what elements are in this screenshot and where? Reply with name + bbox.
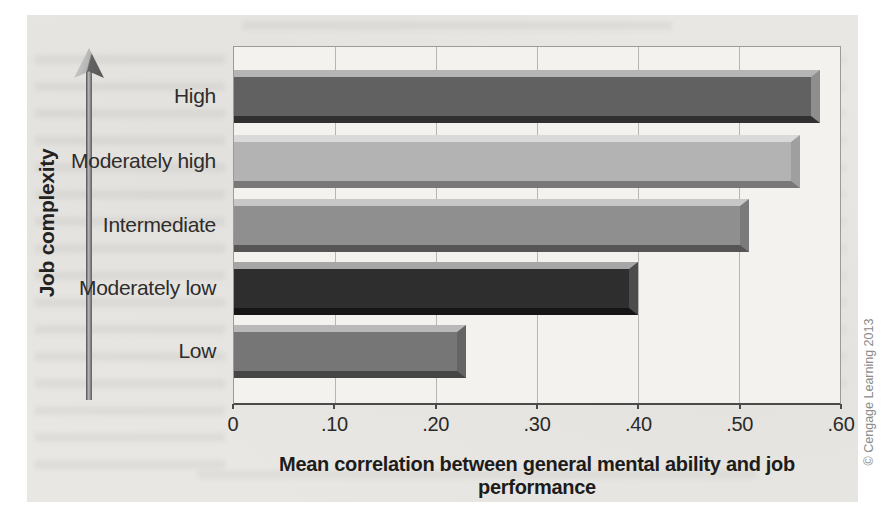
plot-area bbox=[233, 46, 841, 405]
tick-label-60: .60 bbox=[828, 413, 855, 436]
bar-moderately-low bbox=[234, 262, 638, 315]
tick-mark-40 bbox=[637, 404, 639, 409]
tick-mark-0 bbox=[232, 404, 234, 409]
category-label-moderately-high: Moderately high bbox=[27, 149, 225, 173]
bar-low bbox=[234, 325, 466, 378]
bar-intermediate bbox=[234, 199, 749, 252]
category-label-intermediate: Intermediate bbox=[27, 213, 225, 237]
tick-label-40: .40 bbox=[625, 413, 652, 436]
bar-moderately-high bbox=[234, 135, 800, 188]
tick-mark-10 bbox=[333, 404, 335, 409]
tick-mark-30 bbox=[536, 404, 538, 409]
figure-panel: Job complexity HighModerately highInterm… bbox=[27, 15, 858, 502]
category-label-high: High bbox=[27, 84, 225, 108]
copyright-credit: © Cengage Learning 2013 bbox=[862, 319, 876, 466]
tick-label-30: .30 bbox=[524, 413, 551, 436]
page-bleedthrough-texture bbox=[242, 21, 672, 39]
tick-label-50: .50 bbox=[726, 413, 753, 436]
tick-label-10: .10 bbox=[321, 413, 348, 436]
category-label-low: Low bbox=[27, 339, 225, 363]
x-axis-tick-labels: 0.10.20.30.40.50.60 bbox=[233, 413, 841, 439]
category-label-moderately-low: Moderately low bbox=[27, 276, 225, 300]
x-axis-title: Mean correlation between general mental … bbox=[233, 453, 841, 499]
x-axis-tick-marks bbox=[233, 404, 841, 410]
tick-mark-50 bbox=[739, 404, 741, 409]
tick-mark-60 bbox=[840, 404, 842, 409]
tick-label-0: 0 bbox=[228, 413, 239, 436]
tick-mark-20 bbox=[435, 404, 437, 409]
bar-high bbox=[234, 70, 820, 123]
tick-label-20: .20 bbox=[422, 413, 449, 436]
category-labels: HighModerately highIntermediateModeratel… bbox=[27, 46, 225, 402]
